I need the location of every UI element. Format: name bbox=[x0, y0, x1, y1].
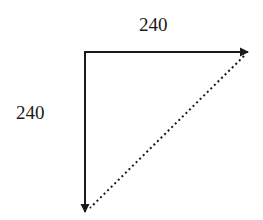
dotted-diagonal-line bbox=[90, 56, 244, 208]
vector-diagram: 240 240 bbox=[0, 0, 263, 220]
vertical-magnitude-label: 240 bbox=[16, 103, 45, 122]
horizontal-magnitude-label: 240 bbox=[139, 15, 168, 34]
